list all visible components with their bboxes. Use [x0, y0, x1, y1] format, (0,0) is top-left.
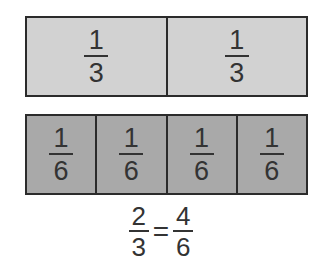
- fraction-bar-line: [119, 153, 143, 155]
- fraction-bar-line: [225, 55, 249, 57]
- fraction: 1 3: [225, 27, 249, 86]
- right-fraction: 4 6: [173, 204, 193, 259]
- third-cell: 1 3: [168, 18, 307, 95]
- denominator: 6: [176, 235, 190, 259]
- sixth-cell: 1 6: [238, 116, 306, 193]
- denominator: 6: [124, 158, 139, 184]
- thirds-fraction-bar: 1 3 1 3: [25, 16, 308, 97]
- denominator: 3: [89, 60, 104, 86]
- numerator: 2: [130, 204, 148, 228]
- fraction-bar-line: [190, 153, 214, 155]
- equivalence-equation: 2 3 = 4 6: [0, 204, 322, 259]
- sixth-cell: 1 6: [27, 116, 97, 193]
- fraction: 1 6: [190, 125, 214, 184]
- numerator: 1: [192, 125, 211, 151]
- numerator: 1: [87, 27, 106, 53]
- numerator: 1: [262, 125, 281, 151]
- left-fraction: 2 3: [129, 204, 149, 259]
- sixths-fraction-bar: 1 6 1 6 1 6 1 6: [25, 114, 308, 195]
- fraction: 1 3: [84, 27, 108, 86]
- fraction: 1 6: [49, 125, 73, 184]
- fraction: 1 6: [260, 125, 284, 184]
- denominator: 3: [229, 60, 244, 86]
- equals-sign: =: [153, 216, 169, 248]
- denominator: 6: [264, 158, 279, 184]
- fraction-bar-line: [260, 153, 284, 155]
- fraction-bar-line: [84, 55, 108, 57]
- fraction-bar-line: [49, 153, 73, 155]
- sixth-cell: 1 6: [97, 116, 167, 193]
- numerator: 4: [174, 204, 192, 228]
- numerator: 1: [122, 125, 141, 151]
- denominator: 6: [194, 158, 209, 184]
- denominator: 3: [132, 235, 146, 259]
- numerator: 1: [227, 27, 246, 53]
- fraction: 1 6: [119, 125, 143, 184]
- third-cell: 1 3: [27, 18, 168, 95]
- sixth-cell: 1 6: [168, 116, 238, 193]
- denominator: 6: [54, 158, 69, 184]
- numerator: 1: [52, 125, 71, 151]
